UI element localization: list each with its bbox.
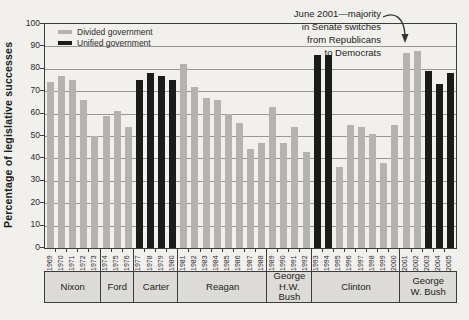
- gridline-70: [45, 91, 456, 92]
- bar-1977: [136, 80, 143, 248]
- y-tick-label-10: 10: [8, 220, 40, 229]
- x-axis-tick: [244, 248, 245, 252]
- year-label-1995: 1995: [334, 249, 341, 271]
- year-label-2002: 2002: [412, 249, 419, 271]
- year-label-1989: 1989: [268, 249, 275, 271]
- year-label-1974: 1974: [101, 249, 108, 271]
- bar-1970: [58, 76, 65, 248]
- x-axis-tick: [233, 248, 234, 252]
- year-label-1972: 1972: [79, 249, 86, 271]
- year-label-2001: 2001: [401, 249, 408, 271]
- x-axis-tick: [144, 248, 145, 252]
- y-axis-tick: [40, 202, 44, 203]
- annotation-line: in Senate switches: [294, 20, 381, 33]
- year-label-1979: 1979: [157, 249, 164, 271]
- bar-1981: [180, 64, 187, 248]
- y-axis-tick: [40, 247, 44, 248]
- bar-1989: [269, 107, 276, 248]
- x-axis-tick: [88, 248, 89, 252]
- bar-1991: [291, 127, 298, 248]
- bar-1997: [358, 127, 365, 248]
- bar-2005: [447, 73, 454, 248]
- president-group-reagan: Reagan: [178, 272, 267, 302]
- year-label-1977: 1977: [134, 249, 141, 271]
- x-axis-tick: [255, 248, 256, 252]
- year-label-1994: 1994: [323, 249, 330, 271]
- legend-swatch-unified-icon: [58, 41, 72, 45]
- bar-1971: [69, 80, 76, 248]
- year-label-2003: 2003: [423, 249, 430, 271]
- x-axis-tick: [77, 248, 78, 252]
- group-separator: [266, 248, 267, 302]
- year-label-1980: 1980: [168, 249, 175, 271]
- y-axis-tick: [40, 135, 44, 136]
- group-separator: [177, 248, 178, 302]
- bar-1987: [247, 149, 254, 248]
- bar-1988: [258, 143, 265, 248]
- president-group-ford: Ford: [101, 272, 134, 302]
- year-label-1984: 1984: [212, 249, 219, 271]
- x-axis-tick: [122, 248, 123, 252]
- year-label-1982: 1982: [190, 249, 197, 271]
- y-tick-label-0: 0: [8, 243, 40, 252]
- x-axis-tick: [411, 248, 412, 252]
- x-axis-tick: [188, 248, 189, 252]
- y-axis-tick: [40, 68, 44, 69]
- bar-1994: [325, 55, 332, 248]
- year-label-1990: 1990: [279, 249, 286, 271]
- year-label-2004: 2004: [434, 249, 441, 271]
- y-tick-label-50: 50: [8, 131, 40, 140]
- gridline-60: [45, 114, 456, 115]
- bar-1986: [236, 123, 243, 248]
- bar-1972: [80, 100, 87, 248]
- year-label-1978: 1978: [146, 249, 153, 271]
- group-separator: [311, 248, 312, 302]
- legend-item-divided: Divided government: [58, 26, 153, 37]
- y-axis-tick: [40, 45, 44, 46]
- x-axis-tick: [355, 248, 356, 252]
- group-separator: [133, 248, 134, 302]
- y-axis-tick: [40, 113, 44, 114]
- year-label-1991: 1991: [290, 249, 297, 271]
- x-axis-tick: [433, 248, 434, 252]
- y-tick-label-80: 80: [8, 63, 40, 72]
- year-label-1999: 1999: [379, 249, 386, 271]
- x-axis-tick: [444, 248, 445, 252]
- president-band: NixonFordCarterReaganGeorge H.W. BushCli…: [44, 271, 457, 303]
- x-axis-tick: [299, 248, 300, 252]
- annotation-line: from Republicans: [294, 33, 381, 46]
- bar-1976: [125, 127, 132, 248]
- x-axis-tick: [166, 248, 167, 252]
- legend-label-unified: Unified government: [77, 38, 151, 48]
- y-axis-tick: [40, 90, 44, 91]
- year-label-1997: 1997: [357, 249, 364, 271]
- year-label-1981: 1981: [179, 249, 186, 271]
- bar-1984: [214, 100, 221, 248]
- bar-2004: [436, 84, 443, 248]
- year-label-1992: 1992: [301, 249, 308, 271]
- year-label-1988: 1988: [257, 249, 264, 271]
- year-label-1976: 1976: [123, 249, 130, 271]
- president-group-carter: Carter: [134, 272, 178, 302]
- bar-1999: [380, 163, 387, 248]
- year-label-1996: 1996: [345, 249, 352, 271]
- legislative-success-figure: Percentage of legislative successes Divi…: [0, 0, 469, 320]
- group-separator: [100, 248, 101, 302]
- x-axis-tick: [222, 248, 223, 252]
- year-label-1973: 1973: [90, 249, 97, 271]
- bar-1975: [114, 111, 121, 248]
- x-axis-tick: [55, 248, 56, 252]
- x-axis-tick: [388, 248, 389, 252]
- legend-item-unified: Unified government: [58, 37, 153, 48]
- year-label-1998: 1998: [368, 249, 375, 271]
- x-axis-tick: [333, 248, 334, 252]
- annotation-line: to Democrats: [294, 46, 381, 59]
- president-group-clinton: Clinton: [312, 272, 401, 302]
- year-label-1987: 1987: [246, 249, 253, 271]
- year-label-1975: 1975: [112, 249, 119, 271]
- y-axis-tick: [40, 157, 44, 158]
- annotation-line: June 2001—majority: [294, 7, 381, 20]
- bar-1985: [225, 114, 232, 248]
- x-axis-tick: [377, 248, 378, 252]
- annotation-arrow-icon: [381, 10, 411, 48]
